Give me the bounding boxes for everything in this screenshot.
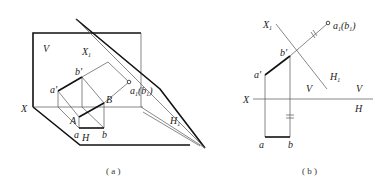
proj-b-prime-to-x1 [82,62,108,77]
label-X1-b: X1 [262,19,272,31]
a-prime-to-A [58,91,79,117]
label-b-b: b [288,139,293,150]
point-a1b1-b [326,21,330,25]
label-b-prime-b: b' [280,47,288,58]
base-diag-b [82,107,104,128]
label-a1b1-a: a1(b1) [130,85,153,97]
label-A: A [69,115,77,126]
caption-a: ( a ) [106,166,121,176]
label-b-a: b [102,129,107,140]
panel-b: X1 a1(b1) b' a' H1 V V X H a b ( b ) [242,19,373,176]
label-H1-a: H1 [169,115,180,127]
label-a-prime-a: a' [50,84,58,95]
h1-plane-inner-edge [141,107,205,148]
segment-AB [79,103,104,117]
label-H-a: H [81,132,90,143]
label-a-a: a [74,129,79,140]
label-V-a: V [43,43,51,54]
label-b-prime-a: b' [75,66,83,77]
label-X-a: X [20,103,28,114]
label-a-prime-b: a' [254,69,262,80]
proj-line-b-prime-a1 [290,24,327,56]
v-plane-left-top [33,33,141,107]
projection-diagram: V X1 b' a' a1(b1) X B A H1 a H b ( a ) [0,0,385,187]
proj-line-upper [108,62,129,82]
segment-a-prime-b-prime [58,77,82,91]
b-prime-to-B [82,77,104,103]
point-a1b1-a [127,80,131,84]
label-B: B [106,94,112,105]
segment-a-prime-b-prime-b [265,56,290,75]
label-X1-a: X1 [81,46,91,58]
caption-b: ( b ) [302,166,317,176]
label-a-b: a [259,139,264,150]
label-a1b1-b: a1(b1) [333,20,356,32]
panel-a: V X1 b' a' a1(b1) X B A H1 a H b ( a ) [20,19,205,176]
label-H-b: H [354,103,363,114]
label-X-b: X [242,94,250,105]
label-V-right-b: V [356,83,364,94]
label-V-left-b: V [306,83,314,94]
label-H1-b: H1 [329,71,340,83]
